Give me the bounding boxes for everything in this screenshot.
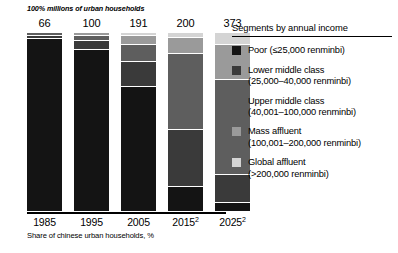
legend-item[interactable]: Global affluent(>200,000 renminbi) — [232, 157, 398, 180]
bar-segment — [121, 61, 156, 86]
legend-color-swatch — [232, 158, 241, 167]
legend-series-name: Lower middle class — [248, 65, 351, 76]
bars-area: 66100191200373 — [27, 16, 226, 212]
x-axis-labels: 1985199520052015220252 — [27, 215, 226, 229]
bar-column: 200 — [168, 16, 203, 212]
legend-series-name: Mass affluent — [248, 126, 361, 137]
plot-panel: 100% millions of urban households 661001… — [0, 0, 226, 253]
bar-segment — [168, 37, 203, 53]
legend-series-name: Poor (≤25,000 renminbi) — [248, 45, 345, 56]
bar-stack — [27, 33, 62, 211]
legend-text: Lower middle class(25,000–40,000 renminb… — [248, 65, 351, 88]
legend-color-swatch — [232, 66, 241, 75]
bar-stack — [74, 33, 109, 211]
legend-text: Poor (≤25,000 renminbi) — [248, 45, 345, 56]
x-axis-line — [27, 212, 226, 214]
legend-color-swatch — [232, 97, 241, 106]
bar-segment — [74, 40, 109, 49]
legend-panel: Segments by annual income Poor (≤25,000 … — [232, 22, 398, 188]
bar-segment — [27, 38, 62, 211]
x-axis-label: 20252 — [215, 215, 250, 229]
bar-column: 66 — [27, 16, 62, 212]
legend-text: Global affluent(>200,000 renminbi) — [248, 157, 329, 180]
legend-color-swatch — [232, 46, 241, 55]
legend-series-range: (25,000–40,000 renminbi) — [248, 76, 351, 87]
legend-series-name: Upper middle class — [248, 96, 356, 107]
x-axis-label-superscript: 2 — [195, 216, 199, 223]
bar-total-label: 100 — [74, 16, 109, 31]
legend-text: Mass affluent(100,001–200,000 renminbi) — [248, 126, 361, 149]
bar-segment — [121, 35, 156, 44]
stacked-bar-chart: 100% millions of urban households 661001… — [0, 0, 398, 253]
legend-item[interactable]: Mass affluent(100,001–200,000 renminbi) — [232, 126, 398, 149]
bar-segment — [168, 53, 203, 130]
x-axis-label: 1985 — [27, 215, 62, 229]
bar-stack — [168, 33, 203, 211]
legend-series-name: Global affluent — [248, 157, 329, 168]
legend-item[interactable]: Lower middle class(25,000–40,000 renminb… — [232, 65, 398, 88]
legend-series-range: (>200,000 renminbi) — [248, 169, 329, 180]
bar-segment — [215, 202, 250, 211]
legend-series-range: (100,001–200,000 renminbi) — [248, 138, 361, 149]
x-axis-label: 20152 — [168, 215, 203, 229]
bar-segment — [168, 129, 203, 186]
bar-segment — [121, 44, 156, 62]
legend-item[interactable]: Upper middle class(40,001–100,000 renmin… — [232, 96, 398, 119]
bar-total-label: 66 — [27, 16, 62, 31]
legend-color-swatch — [232, 127, 241, 136]
legend-divider — [232, 36, 392, 37]
bar-stack — [121, 33, 156, 211]
bar-column: 191 — [121, 16, 156, 212]
x-axis-label: 1995 — [74, 215, 109, 229]
legend-items: Poor (≤25,000 renminbi)Lower middle clas… — [232, 45, 398, 180]
chart-subtitle: 100% millions of urban households — [27, 4, 144, 13]
bar-segment — [74, 49, 109, 211]
x-axis-label: 2005 — [121, 215, 156, 229]
bar-segment — [121, 86, 156, 211]
bar-segment — [168, 186, 203, 211]
x-axis-label-superscript: 2 — [242, 216, 246, 223]
bar-column: 100 — [74, 16, 109, 212]
chart-footnote: Share of chinese urban households, % — [27, 231, 154, 240]
legend-series-range: (40,001–100,000 renminbi) — [248, 107, 356, 118]
bar-total-label: 200 — [168, 16, 203, 31]
legend-item[interactable]: Poor (≤25,000 renminbi) — [232, 45, 398, 56]
legend-title: Segments by annual income — [232, 22, 398, 36]
legend-text: Upper middle class(40,001–100,000 renmin… — [248, 96, 356, 119]
bar-total-label: 191 — [121, 16, 156, 31]
